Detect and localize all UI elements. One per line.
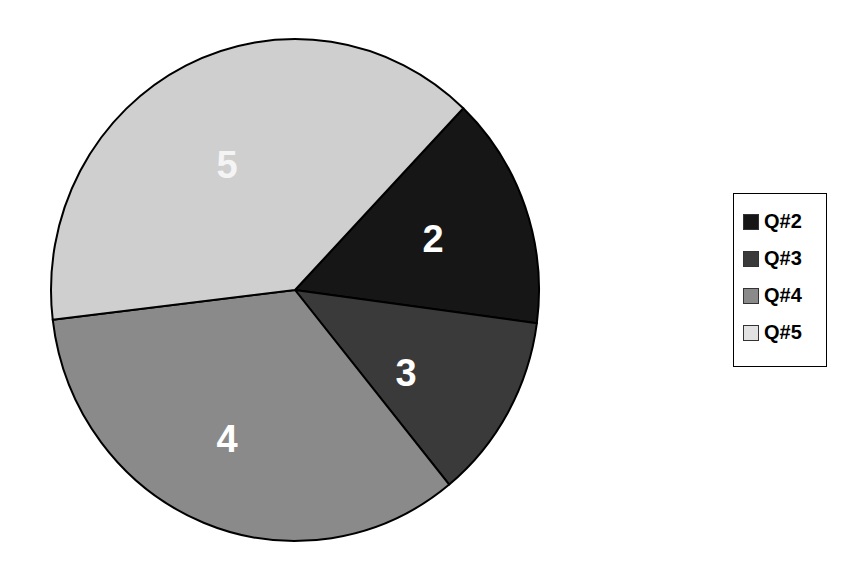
chart-legend: Q#2 Q#3 Q#4 Q#5	[733, 193, 827, 367]
legend-swatch-q3	[743, 251, 759, 267]
legend-item-q4: Q#4	[734, 277, 826, 314]
legend-label-q3: Q#3	[764, 247, 802, 270]
pie-chart-plot: 2 3 4 5	[0, 0, 857, 567]
slice-label-q5: 5	[216, 144, 237, 186]
slice-label-q2: 2	[422, 218, 443, 260]
legend-label-q4: Q#4	[764, 284, 802, 307]
legend-label-q2: Q#2	[764, 210, 802, 233]
pie-slices	[51, 39, 539, 541]
legend-swatch-q2	[743, 214, 759, 230]
legend-item-q2: Q#2	[734, 203, 826, 240]
legend-label-q5: Q#5	[764, 321, 802, 344]
legend-item-q5: Q#5	[734, 314, 826, 351]
legend-swatch-q5	[743, 325, 759, 341]
legend-item-q3: Q#3	[734, 240, 826, 277]
pie-chart: 2 3 4 5 Q#2 Q#3 Q#4 Q#5	[0, 0, 857, 567]
slice-label-q4: 4	[216, 418, 237, 460]
legend-swatch-q4	[743, 288, 759, 304]
slice-label-q3: 3	[395, 352, 416, 394]
